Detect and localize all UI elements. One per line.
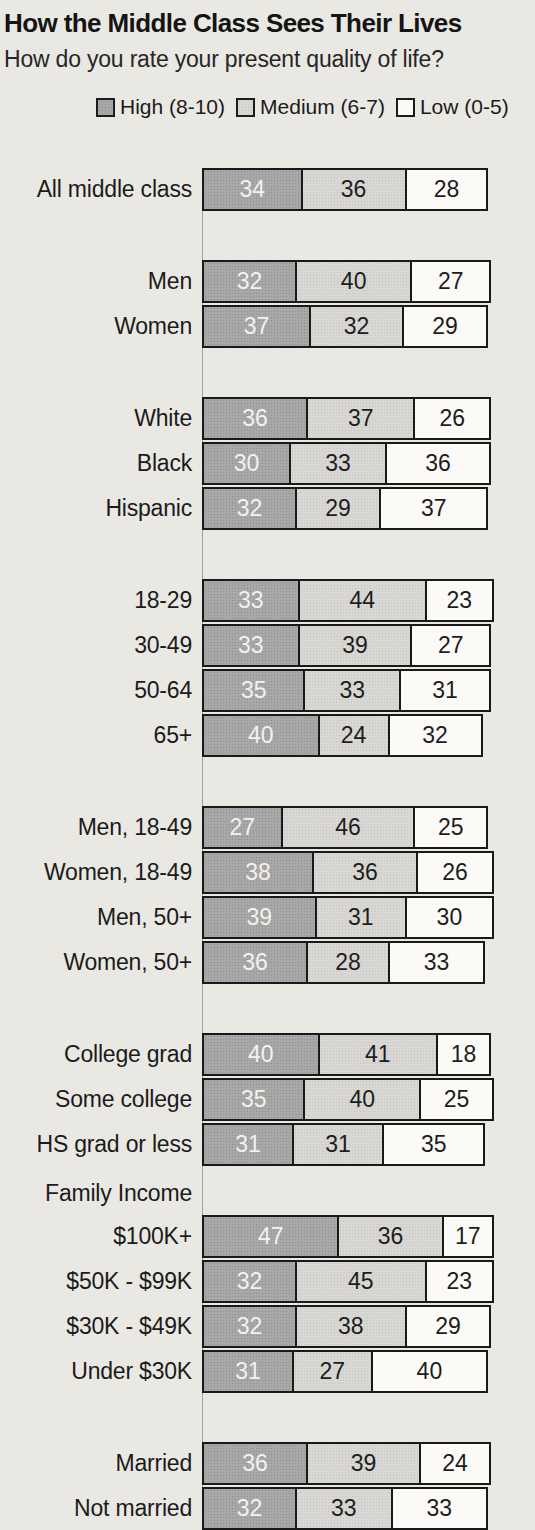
bar-segment-low: 29 xyxy=(405,1307,489,1346)
stacked-bar: 322937 xyxy=(202,487,488,530)
stacked-bar: 343628 xyxy=(202,168,488,211)
stacked-bar: 334423 xyxy=(202,579,494,622)
bar-segment-medium: 33 xyxy=(289,444,385,483)
bar-segment-medium: 36 xyxy=(337,1217,441,1256)
bar-value: 34 xyxy=(239,176,265,203)
chart-row: Not married323333 xyxy=(0,1487,535,1530)
chart-group: College grad404118Some college354025HS g… xyxy=(0,1033,535,1166)
chart-row: 50-64353331 xyxy=(0,669,535,712)
bar-segment-low: 29 xyxy=(402,307,486,346)
bar-value: 40 xyxy=(341,268,367,295)
bar-value: 26 xyxy=(439,405,465,432)
legend-item-medium: Medium (6-7) xyxy=(236,95,385,119)
bar-segment-low: 33 xyxy=(388,943,484,982)
bar-segment-low: 36 xyxy=(385,444,489,483)
bar-value: 30 xyxy=(437,904,463,931)
bar-value: 18 xyxy=(451,1041,477,1068)
bar-value: 45 xyxy=(348,1268,374,1295)
bar-segment-high: 32 xyxy=(204,1489,295,1528)
legend-swatch-high xyxy=(96,98,115,117)
stacked-bar: 363726 xyxy=(202,397,491,440)
legend-item-low: Low (0-5) xyxy=(396,95,509,119)
bar-value: 40 xyxy=(248,722,274,749)
bar-segment-low: 26 xyxy=(413,399,489,438)
bar-segment-low: 24 xyxy=(419,1444,489,1483)
row-label: HS grad or less xyxy=(0,1131,202,1158)
bar-value: 33 xyxy=(238,632,264,659)
row-label: 30-49 xyxy=(0,632,202,659)
chart-row: Women373229 xyxy=(0,305,535,348)
bar-segment-medium: 31 xyxy=(292,1125,382,1164)
bar-value: 29 xyxy=(325,495,351,522)
bar-value: 31 xyxy=(235,1358,261,1385)
bar-segment-high: 31 xyxy=(204,1125,292,1164)
bar-segment-medium: 40 xyxy=(295,262,411,301)
bar-value: 36 xyxy=(341,176,367,203)
legend-label: High (8-10) xyxy=(120,95,225,119)
bar-segment-low: 23 xyxy=(425,1262,492,1301)
bar-value: 17 xyxy=(455,1223,481,1250)
bar-segment-medium: 31 xyxy=(315,898,405,937)
bar-value: 29 xyxy=(435,1313,461,1340)
bar-value: 33 xyxy=(427,1495,453,1522)
chart-row: Men324027 xyxy=(0,260,535,303)
bar-value: 32 xyxy=(237,1268,263,1295)
row-label: All middle class xyxy=(0,176,202,203)
row-label: Women, 18-49 xyxy=(0,859,202,886)
bar-segment-high: 32 xyxy=(204,489,295,528)
bar-value: 37 xyxy=(244,313,270,340)
stacked-bar: 312740 xyxy=(202,1350,488,1393)
stacked-bar: 324027 xyxy=(202,260,491,303)
bar-value: 38 xyxy=(245,859,271,886)
bar-segment-medium: 39 xyxy=(298,626,411,665)
chart-row: 30-49333927 xyxy=(0,624,535,667)
bar-segment-medium: 41 xyxy=(318,1035,436,1074)
chart-row: 65+402432 xyxy=(0,714,535,757)
chart-row: Men, 18-49274625 xyxy=(0,806,535,849)
bar-segment-medium: 45 xyxy=(295,1262,425,1301)
bar-segment-low: 27 xyxy=(410,262,489,301)
bar-value: 37 xyxy=(421,495,447,522)
bar-value: 33 xyxy=(331,1495,357,1522)
bar-segment-medium: 24 xyxy=(318,716,388,755)
stacked-bar: 393130 xyxy=(202,896,494,939)
bar-value: 23 xyxy=(447,1268,473,1295)
row-label: $50K - $99K xyxy=(0,1268,202,1295)
row-label: $100K+ xyxy=(0,1223,202,1250)
page-subtitle: How do you rate your present quality of … xyxy=(4,46,531,73)
chart-row: 18-29334423 xyxy=(0,579,535,622)
bar-value: 39 xyxy=(247,904,273,931)
bar-segment-low: 17 xyxy=(442,1217,492,1256)
bar-segment-high: 31 xyxy=(204,1352,292,1391)
stacked-bar: 402432 xyxy=(202,714,483,757)
bar-value: 30 xyxy=(234,450,260,477)
bar-segment-medium: 39 xyxy=(306,1444,419,1483)
bar-value: 36 xyxy=(425,450,451,477)
stacked-bar: 362833 xyxy=(202,941,485,984)
chart-row: White363726 xyxy=(0,397,535,440)
bar-segment-low: 28 xyxy=(405,170,486,209)
bar-value: 23 xyxy=(447,587,473,614)
bar-segment-low: 31 xyxy=(399,671,489,710)
bar-segment-medium: 29 xyxy=(295,489,379,528)
bar-value: 47 xyxy=(258,1223,284,1250)
bar-value: 24 xyxy=(341,722,367,749)
bar-segment-low: 30 xyxy=(405,898,492,937)
bar-segment-high: 33 xyxy=(204,581,298,620)
legend-swatch-low xyxy=(396,98,415,117)
bar-segment-high: 35 xyxy=(204,671,303,710)
chart-row: $50K - $99K324523 xyxy=(0,1260,535,1303)
bar-value: 39 xyxy=(351,1450,377,1477)
bar-segment-medium: 37 xyxy=(306,399,413,438)
bar-value: 28 xyxy=(335,949,361,976)
bar-segment-low: 26 xyxy=(416,853,492,892)
bar-segment-high: 39 xyxy=(204,898,315,937)
legend-swatch-medium xyxy=(236,98,255,117)
bar-segment-high: 36 xyxy=(204,943,306,982)
chart-row: Men, 50+393130 xyxy=(0,896,535,939)
legend: High (8-10)Medium (6-7)Low (0-5) xyxy=(96,95,535,119)
row-label: Under $30K xyxy=(0,1358,202,1385)
chart-row: College grad404118 xyxy=(0,1033,535,1076)
bar-value: 31 xyxy=(432,677,458,704)
bar-value: 32 xyxy=(237,1313,263,1340)
